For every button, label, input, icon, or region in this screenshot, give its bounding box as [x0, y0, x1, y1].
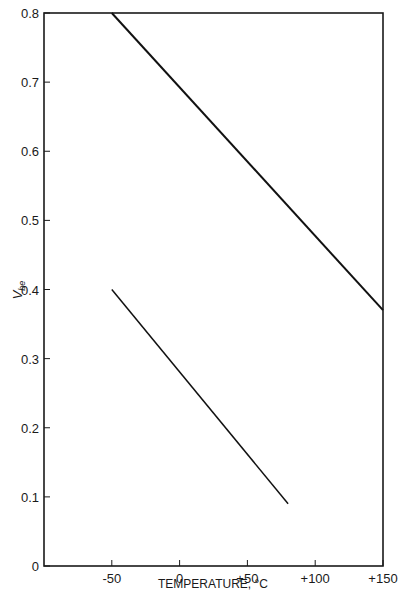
plot-frame [44, 13, 383, 566]
y-tick-label: 0.5 [21, 213, 39, 228]
series-line [112, 290, 288, 504]
y-axis-title: Vbe [10, 281, 27, 300]
x-tick-label: -50 [102, 571, 121, 586]
y-tick-label: 0.1 [21, 490, 39, 505]
y-tick-label: 0.7 [21, 75, 39, 90]
y-tick-label: 0.2 [21, 421, 39, 436]
y-tick-label: 0.3 [21, 352, 39, 367]
data-series [112, 13, 383, 504]
y-tick-label: 0.8 [21, 6, 39, 21]
x-tick-label: +100 [301, 571, 330, 586]
y-axis-title-sub: be [17, 281, 27, 291]
series-line [112, 13, 383, 310]
x-axis-title: TEMPERATURE, °C [158, 577, 268, 591]
y-tick-label: 0.6 [21, 144, 39, 159]
chart: 00.10.20.30.40.50.60.70.8 -500+50+100+15… [0, 0, 399, 605]
y-tick-label: 0 [32, 559, 39, 574]
x-tick-label: +150 [368, 571, 397, 586]
plot-border [44, 13, 383, 566]
